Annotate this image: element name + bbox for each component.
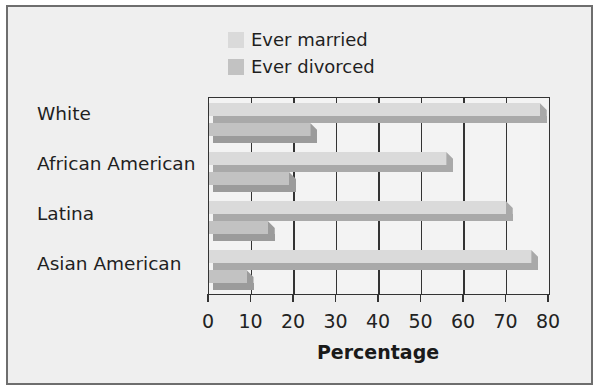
x-tick xyxy=(547,294,549,302)
bar-face xyxy=(209,123,310,136)
x-tick-label: 60 xyxy=(451,310,475,332)
legend-label: Ever married xyxy=(251,29,368,50)
category-label-asian-american: Asian American xyxy=(37,253,181,274)
x-tick xyxy=(505,294,507,302)
x-tick xyxy=(250,294,252,302)
legend-swatch-married xyxy=(228,32,244,48)
bar-depth xyxy=(213,263,538,270)
bar-latina-ever-married xyxy=(209,201,506,214)
bar-depth xyxy=(213,234,275,241)
x-tick xyxy=(292,294,294,302)
x-tick-label: 40 xyxy=(366,310,390,332)
bar-depth xyxy=(213,136,317,143)
x-tick-label: 80 xyxy=(536,310,560,332)
legend: Ever married Ever divorced xyxy=(228,26,375,80)
bar-asian-american-ever-married xyxy=(209,250,531,263)
bar-latina-ever-divorced xyxy=(209,221,268,234)
bar-face xyxy=(209,270,247,283)
category-label-african-american: African American xyxy=(37,153,195,174)
bar-depth xyxy=(213,165,453,172)
x-axis-title: Percentage xyxy=(317,341,439,363)
bar-depth xyxy=(213,214,513,221)
bar-face xyxy=(209,201,506,214)
bar-face xyxy=(209,250,531,263)
bar-depth xyxy=(213,185,296,192)
bar-face xyxy=(209,172,289,185)
bar-asian-american-ever-divorced xyxy=(209,270,247,283)
x-tick-label: 70 xyxy=(493,310,517,332)
legend-swatch-divorced xyxy=(228,59,244,75)
bar-african-american-ever-divorced xyxy=(209,172,289,185)
bar-african-american-ever-married xyxy=(209,152,446,165)
legend-item-ever-married: Ever married xyxy=(228,26,375,53)
bar-face xyxy=(209,221,268,234)
category-label-latina: Latina xyxy=(37,203,94,224)
legend-label: Ever divorced xyxy=(251,56,375,77)
x-tick-label: 0 xyxy=(202,310,214,332)
x-tick-label: 20 xyxy=(281,310,305,332)
x-tick xyxy=(462,294,464,302)
x-tick-label: 50 xyxy=(408,310,432,332)
x-tick-label: 10 xyxy=(238,310,262,332)
legend-item-ever-divorced: Ever divorced xyxy=(228,53,375,80)
x-tick xyxy=(335,294,337,302)
category-label-white: White xyxy=(37,103,91,124)
x-tick-label: 30 xyxy=(323,310,347,332)
x-tick xyxy=(207,294,209,302)
bar-face xyxy=(209,152,446,165)
x-tick xyxy=(377,294,379,302)
bar-depth xyxy=(213,283,254,290)
bar-white-ever-married xyxy=(209,103,540,116)
x-tick xyxy=(420,294,422,302)
bar-depth xyxy=(213,116,547,123)
bar-face xyxy=(209,103,540,116)
bar-white-ever-divorced xyxy=(209,123,310,136)
